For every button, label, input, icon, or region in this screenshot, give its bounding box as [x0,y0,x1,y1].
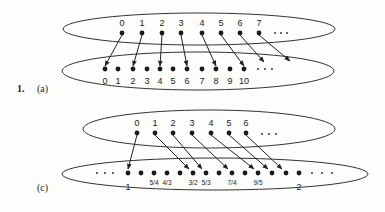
codomain-point [204,171,209,176]
domain-point-label: 4 [208,118,213,128]
mapping-arrow [229,135,268,169]
codomain-point-label: 6 [184,76,189,86]
codomain-point [297,171,302,176]
part-a-diagram: 01234567 012345678910 [62,13,335,90]
part-c-codomain-points: 15/44/33/25/37/49/52 [96,171,333,192]
codomain-point-label: 8 [213,76,218,86]
codomain-point [217,171,222,176]
mapping-arrow [246,135,282,169]
domain-point-label: 5 [226,118,231,128]
codomain-point [256,171,261,176]
codomain-point-label: 5/4 [149,179,158,186]
ellipsis-icon [257,68,273,70]
mapping-arrow [202,35,216,66]
codomain-point [103,67,108,72]
diagram-root: 01234567 012345678910 0123456 15/44/33/2… [0,0,385,212]
mapping-arrow [160,35,162,66]
codomain-point [171,67,176,72]
domain-point [120,31,125,36]
domain-point-label: 7 [256,18,261,28]
codomain-point [243,171,248,176]
domain-point-label: 1 [152,118,157,128]
domain-point [153,131,158,136]
ellipsis-icon [96,172,114,174]
domain-point-label: 2 [159,18,164,28]
part-a-codomain-points: 012345678910 [102,67,272,86]
domain-point [160,31,165,36]
mapping-arrow [133,35,142,66]
codomain-point [116,67,121,72]
domain-point-label: 6 [237,18,242,28]
codomain-point-label: 7/4 [227,179,236,186]
domain-point [209,131,214,136]
domain-point-label: 2 [170,118,175,128]
mapping-arrow [105,35,122,66]
part-c-domain-ellipse [83,110,335,148]
part-a-label: (a) [37,83,48,95]
domain-point [140,31,145,36]
codomain-point [145,67,150,72]
codomain-point-label: 7 [199,76,204,86]
ellipsis-icon [274,32,288,34]
codomain-point-label: 1 [125,182,130,192]
codomain-point [228,67,233,72]
codomain-point [126,171,131,176]
codomain-point [242,67,247,72]
domain-point-label: 3 [178,18,183,28]
part-c-mapping-arrows [128,135,282,169]
domain-point [244,131,249,136]
codomain-point [185,67,190,72]
codomain-point-label: 5 [170,76,175,86]
ellipsis-icon [311,172,333,174]
set-mapping-diagram: 01234567 012345678910 0123456 15/44/33/2… [0,0,385,212]
domain-point-label: 5 [218,18,223,28]
domain-point [179,31,184,36]
domain-point [257,31,262,36]
domain-point [190,131,195,136]
mapping-arrow [128,135,137,169]
codomain-point-label: 3/2 [188,179,197,186]
codomain-point [178,171,183,176]
codomain-point [131,67,136,72]
codomain-point-label: 1 [115,76,120,86]
part-a-domain-points: 01234567 [119,18,287,35]
codomain-point [270,171,275,176]
codomain-point-label: 3 [144,76,149,86]
domain-point-label: 1 [139,18,144,28]
domain-point-label: 4 [199,18,204,28]
mapping-arrow [221,35,244,66]
codomain-point [165,171,170,176]
part-c-diagram: 0123456 15/44/33/25/37/49/52 [62,110,368,192]
codomain-point [200,67,205,72]
codomain-point-label: 9/5 [253,179,262,186]
codomain-point [230,171,235,176]
codomain-point [152,171,157,176]
part-a-mapping-arrows [105,35,290,66]
codomain-point-label: 2 [130,76,135,86]
domain-point [171,131,176,136]
part-c-codomain-ellipse [62,158,368,190]
mapping-arrow [211,135,254,169]
problem-number: 1. [17,83,25,94]
mapping-arrow [259,35,290,61]
codomain-point [284,171,289,176]
codomain-point [191,171,196,176]
codomain-point-label: 9 [227,76,232,86]
codomain-point-label: 4/3 [162,179,171,186]
domain-point-label: 0 [134,118,139,128]
domain-point [219,31,224,36]
codomain-point [158,67,163,72]
codomain-point-label: 10 [239,76,249,86]
domain-point [227,131,232,136]
part-c-domain-points: 0123456 [134,118,276,135]
codomain-point-label: 2 [296,182,301,192]
domain-point [200,31,205,36]
part-c-label: (c) [37,182,48,194]
codomain-point-label: 4 [157,76,162,86]
codomain-point-label: 0 [102,76,107,86]
codomain-point [214,67,219,72]
codomain-point [139,171,144,176]
mapping-arrow [181,35,187,66]
codomain-point-label: 5/3 [201,179,210,186]
domain-point-label: 0 [119,18,124,28]
